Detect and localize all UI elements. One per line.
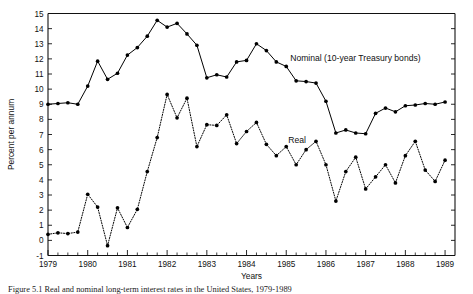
data-point-real	[304, 148, 308, 152]
data-point-nominal	[205, 76, 209, 80]
data-point-nominal	[235, 60, 239, 64]
data-point-real	[344, 170, 348, 174]
data-point-real	[423, 168, 427, 172]
data-point-nominal	[304, 80, 308, 84]
real-label: Real	[288, 135, 306, 145]
data-point-real	[255, 121, 259, 125]
data-point-real	[175, 116, 179, 120]
data-point-real	[394, 181, 398, 185]
data-point-nominal	[76, 102, 80, 106]
y-tick-label: 3	[39, 191, 44, 200]
data-point-real	[324, 163, 328, 167]
data-point-nominal	[175, 21, 179, 25]
data-point-real	[284, 145, 288, 149]
data-point-real	[354, 155, 358, 159]
data-point-real	[334, 199, 338, 203]
data-point-nominal	[245, 59, 249, 63]
x-tick-label: 1980	[79, 260, 98, 269]
figure-caption: Figure 5.1 Real and nominal long-term in…	[8, 284, 473, 294]
data-point-nominal	[413, 103, 417, 107]
data-point-nominal	[66, 101, 70, 105]
series-line-nominal	[48, 20, 445, 133]
y-tick-label: 1	[39, 221, 44, 230]
y-tick-label: 0	[39, 236, 44, 245]
y-tick-label: 10	[34, 85, 44, 94]
x-tick-label: 1985	[277, 260, 296, 269]
data-point-real	[165, 93, 169, 97]
nominal-label: Nominal (10-year Treasury bonds)	[290, 53, 421, 63]
data-point-nominal	[185, 32, 189, 36]
data-point-nominal	[344, 128, 348, 132]
data-point-real	[145, 170, 149, 174]
y-tick-label: 11	[35, 70, 44, 79]
data-point-real	[404, 154, 408, 158]
x-tick-label: 1982	[158, 260, 177, 269]
data-point-real	[86, 192, 90, 196]
data-point-nominal	[86, 84, 90, 88]
data-point-nominal	[354, 131, 358, 135]
data-point-real	[76, 230, 80, 234]
x-axis-title: Years	[241, 271, 262, 281]
data-point-nominal	[195, 43, 199, 47]
data-point-real	[364, 187, 368, 191]
data-point-real	[443, 158, 447, 162]
data-point-real	[195, 145, 199, 149]
data-point-real	[126, 226, 130, 230]
y-tick-label: 13	[34, 40, 44, 49]
data-point-nominal	[126, 53, 130, 57]
data-point-nominal	[215, 73, 219, 77]
x-tick-label: 1986	[317, 260, 336, 269]
data-point-nominal	[106, 77, 110, 81]
x-tick-label: 1989	[436, 260, 455, 269]
data-point-real	[155, 136, 159, 140]
y-axis-title: Percent per annum	[6, 99, 16, 170]
data-point-nominal	[135, 46, 139, 50]
x-tick-label: 1987	[357, 260, 376, 269]
data-point-nominal	[96, 59, 100, 63]
data-point-real	[225, 113, 229, 117]
data-point-nominal	[374, 111, 378, 115]
data-point-real	[413, 139, 417, 143]
data-point-nominal	[265, 49, 269, 53]
data-point-nominal	[294, 79, 298, 83]
data-point-real	[96, 205, 100, 209]
data-point-real	[294, 163, 298, 167]
data-point-nominal	[364, 132, 368, 136]
data-point-nominal	[284, 65, 288, 69]
y-tick-label: 4	[39, 176, 44, 185]
x-tick-label: 1984	[237, 260, 256, 269]
y-tick-label: 12	[34, 55, 44, 64]
data-point-real	[205, 123, 209, 127]
data-point-real	[314, 139, 318, 143]
interest-rate-line-chart: -101234567891011121314151979198019811982…	[0, 0, 473, 294]
data-point-real	[185, 96, 189, 100]
data-point-real	[116, 206, 120, 210]
data-point-nominal	[56, 102, 60, 106]
data-point-nominal	[443, 100, 447, 104]
y-tick-label: 8	[39, 115, 44, 124]
data-point-real	[56, 231, 60, 235]
y-tick-label: 6	[39, 146, 44, 155]
series-line-real	[48, 94, 445, 245]
data-point-nominal	[433, 102, 437, 106]
data-point-real	[215, 124, 219, 128]
data-point-real	[274, 154, 278, 158]
y-tick-label: 2	[39, 206, 44, 215]
y-tick-label: 9	[39, 100, 44, 109]
data-point-real	[245, 130, 249, 134]
data-point-real	[384, 163, 388, 167]
data-point-real	[433, 180, 437, 184]
data-point-real	[374, 175, 378, 179]
data-point-real	[135, 208, 139, 212]
data-point-nominal	[116, 71, 120, 75]
x-tick-label: 1979	[39, 260, 58, 269]
data-point-nominal	[324, 99, 328, 103]
data-point-real	[235, 142, 239, 146]
y-tick-label: 15	[34, 10, 44, 19]
x-tick-label: 1983	[198, 260, 217, 269]
x-tick-label: 1988	[396, 260, 415, 269]
y-tick-label: 5	[39, 161, 44, 170]
data-point-nominal	[155, 18, 159, 22]
data-point-nominal	[274, 60, 278, 64]
y-tick-label: 7	[39, 131, 44, 140]
